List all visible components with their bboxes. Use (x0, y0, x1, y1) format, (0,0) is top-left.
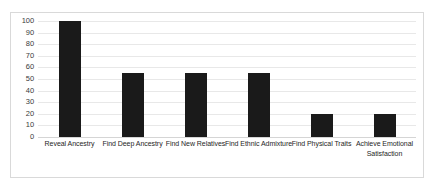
x-axis-tick-label: Achieve Emotional Satisfaction (348, 139, 422, 158)
y-axis-tick-label: 40 (26, 87, 34, 95)
y-axis-tick-label: 10 (26, 122, 34, 130)
gridline (38, 114, 416, 115)
gridline (38, 137, 416, 138)
gridline (38, 125, 416, 126)
y-axis-tick-label: 100 (22, 17, 34, 25)
y-axis-tick-label: 30 (26, 98, 34, 106)
gridline (38, 44, 416, 45)
bar (122, 73, 144, 137)
y-axis-tick-label: 60 (26, 64, 34, 72)
y-axis-tick-label: 50 (26, 75, 34, 83)
bar (311, 114, 333, 137)
y-axis-tick-label: 80 (26, 40, 34, 48)
bar (248, 73, 270, 137)
chart-frame: 1009080706050403020100 Reveal AncestryFi… (10, 12, 424, 178)
gridline (38, 102, 416, 103)
gridline (38, 33, 416, 34)
y-axis-tick-label: 20 (26, 110, 34, 118)
bar (59, 21, 81, 137)
gridline (38, 79, 416, 80)
x-axis-labels: Reveal AncestryFind Deep AncestryFind Ne… (38, 139, 416, 179)
gridline (38, 91, 416, 92)
plot-area: 1009080706050403020100 (38, 21, 416, 137)
y-axis-tick-label: 70 (26, 52, 34, 60)
y-axis-tick-label: 90 (26, 29, 34, 37)
gridline (38, 56, 416, 57)
bar (185, 73, 207, 137)
bar (374, 114, 396, 137)
gridline (38, 67, 416, 68)
gridline (38, 21, 416, 22)
